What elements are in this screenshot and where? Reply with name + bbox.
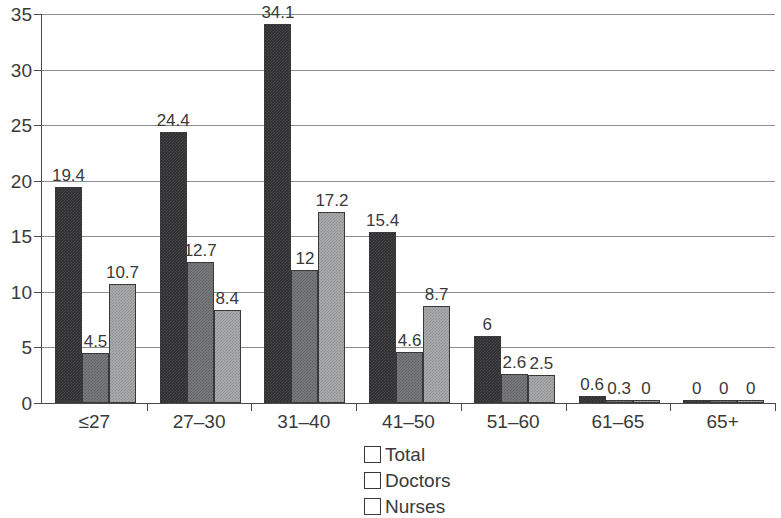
gridline [42,14,775,15]
category-label: 31–40 [244,412,364,431]
bar [710,400,737,403]
x-axis-line [42,403,775,404]
bar [318,212,345,403]
x-tick-mark [670,403,671,411]
y-tick-label: 0 [2,394,32,413]
bar-value-label: 10.7 [93,264,153,281]
y-tick-label: 25 [2,116,32,135]
bar-value-label: 34.1 [248,4,308,21]
category-label: ≤27 [34,412,154,431]
category-label: 41–50 [349,412,469,431]
bar [423,306,450,403]
y-tick-mark [34,70,42,71]
bar [55,187,82,403]
bar-value-label: 8.4 [197,290,257,307]
x-tick-mark [566,403,567,411]
legend-swatch-icon [364,498,381,515]
x-tick-mark [147,403,148,411]
bar-value-label: 17.2 [302,192,362,209]
bar-value-label: 19.4 [39,167,99,184]
bar [683,400,710,403]
bar [187,262,214,403]
y-tick-mark [34,347,42,348]
y-axis-tick-labels: 05101520253035 [0,0,32,518]
x-tick-mark [461,403,462,411]
bar-value-label: 8.7 [407,286,467,303]
bar [501,374,528,403]
bar-chart: 05101520253035 ≤2727–3031–4041–5051–6061… [0,0,781,518]
legend-label: Doctors [385,471,450,490]
bar-value-label: 4.6 [380,332,440,349]
y-tick-mark [34,403,42,404]
gridline [42,181,775,182]
bar [396,352,423,403]
y-tick-label: 5 [2,338,32,357]
bar [528,375,555,403]
bar [82,353,109,403]
gridline [42,236,775,237]
bar-value-label: 24.4 [143,112,203,129]
legend: TotalDoctorsNurses [364,441,450,518]
bar [160,132,187,403]
bar-value-label: 12 [275,250,335,267]
y-tick-label: 15 [2,227,32,246]
bar [291,270,318,403]
bar [264,24,291,403]
bar [214,310,241,403]
y-tick-mark [34,14,42,15]
bar [369,232,396,403]
y-tick-label: 30 [2,61,32,80]
y-tick-mark [34,236,42,237]
legend-item: Doctors [364,467,450,493]
y-tick-label: 10 [2,283,32,302]
bar [633,400,660,403]
legend-swatch-icon [364,446,381,463]
y-axis-line [41,14,42,404]
legend-item: Total [364,441,450,467]
x-tick-mark [775,403,776,411]
category-label: 61–65 [558,412,678,431]
bar [737,400,764,403]
bar-value-label: 4.5 [66,333,126,350]
bar-value-label: 12.7 [170,242,230,259]
bar-value-label: 6 [457,316,517,333]
bar-value-label: 15.4 [353,212,413,229]
legend-item: Nurses [364,493,450,518]
legend-label: Total [385,445,425,464]
category-label: 27–30 [139,412,259,431]
y-tick-label: 20 [2,172,32,191]
y-tick-mark [34,125,42,126]
category-label: 65+ [663,412,781,431]
gridline [42,70,775,71]
bar-value-label: 0 [721,380,781,397]
bar [579,396,606,403]
y-tick-label: 35 [2,5,32,24]
x-tick-mark [356,403,357,411]
x-tick-mark [251,403,252,411]
y-tick-mark [34,292,42,293]
legend-swatch-icon [364,472,381,489]
bar-value-label: 2.5 [511,355,571,372]
legend-label: Nurses [385,497,445,516]
bar [606,400,633,403]
category-label: 51–60 [453,412,573,431]
